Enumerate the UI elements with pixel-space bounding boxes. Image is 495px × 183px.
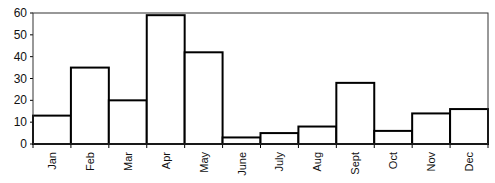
y-tick-label: 20 [14,93,28,107]
x-category-label: Oct [387,152,399,169]
bar-sept [336,83,374,144]
y-tick-label: 10 [14,115,28,129]
x-category-label: Feb [84,152,96,171]
x-category-label: Jan [46,152,58,170]
x-category-label: June [236,152,248,176]
x-category-label: Sept [349,152,361,175]
bar-dec [450,109,488,144]
monthly-bar-chart: 0102030405060 JanFebMarAprMayJuneJulyAug… [0,0,495,183]
y-tick-label: 0 [20,137,27,151]
bar-nov [412,113,450,144]
bar-aug [298,127,336,144]
bar-jan [33,116,71,144]
y-tick-label: 30 [14,72,28,86]
x-category-label: May [198,152,210,173]
x-category-label: July [273,152,285,172]
x-category-label: Mar [122,152,134,171]
bar-mar [109,100,147,144]
x-category-label: Apr [160,152,172,169]
bar-apr [147,15,185,144]
y-axis: 0102030405060 [14,6,33,151]
bar-feb [71,68,109,144]
bar-oct [374,131,412,144]
y-tick-label: 60 [14,6,28,20]
bars [33,15,488,144]
bar-may [185,52,223,144]
x-category-label: Aug [311,152,323,172]
x-axis: JanFebMarAprMayJuneJulyAugSeptOctNovDec [33,144,488,176]
bar-july [261,133,299,144]
y-tick-label: 40 [14,50,28,64]
x-category-label: Dec [463,152,475,172]
x-category-label: Nov [425,152,437,172]
y-tick-label: 50 [14,28,28,42]
